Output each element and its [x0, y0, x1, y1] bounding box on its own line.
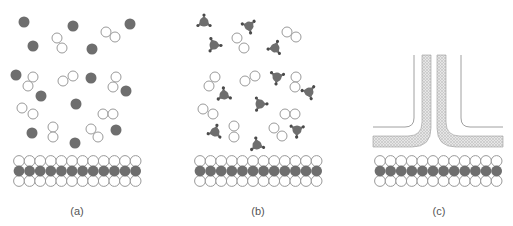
hollow-molecule-pair: [280, 109, 300, 119]
triangular-particle: [266, 37, 285, 55]
dark-particle: [11, 70, 22, 81]
hollow-molecule-pair: [240, 71, 260, 86]
triangular-particle: [208, 37, 223, 53]
hollow-molecule-pair: [101, 27, 120, 42]
triangular-particle: [255, 96, 269, 112]
dark-particle: [70, 138, 81, 149]
triangular-particle: [250, 136, 268, 155]
channel-right-lining: [437, 55, 503, 147]
panel-c: [373, 55, 503, 147]
triangular-particle: [300, 80, 321, 100]
triangular-particle: [240, 15, 260, 36]
dark-particle: [121, 86, 132, 97]
hollow-molecule-pair: [17, 103, 38, 119]
triangular-particle: [216, 86, 235, 106]
membranes: [14, 156, 502, 187]
triangular-particle: [289, 119, 308, 139]
triangular-particle: [206, 122, 225, 139]
dark-particle: [86, 73, 97, 84]
hollow-molecule-pair: [98, 109, 118, 119]
hollow-molecule-pair: [204, 72, 220, 91]
label-a: (a): [70, 205, 83, 217]
panel-a: [11, 17, 136, 149]
channel-right-wall: [461, 55, 503, 127]
dark-particle: [87, 44, 98, 55]
label-c: (c): [433, 205, 446, 217]
channel-left-lining: [373, 55, 431, 147]
hollow-molecule-pair: [232, 33, 249, 53]
figure: (a) (b) (c): [0, 0, 513, 226]
hollow-molecule-pair: [52, 33, 67, 53]
hollow-molecule-pair: [282, 27, 301, 42]
dark-particle: [68, 21, 79, 32]
dark-particle: [111, 125, 122, 136]
hollow-molecule-pair: [58, 71, 78, 86]
dark-particle: [27, 128, 38, 139]
hollow-molecule-pair: [108, 72, 121, 92]
triangular-particle: [269, 67, 287, 86]
hollow-molecule-pair: [86, 124, 103, 142]
hollow-molecule-pair: [269, 123, 287, 141]
panel-b: [196, 13, 320, 155]
dark-particle: [125, 19, 136, 30]
hollow-molecule-pair: [23, 72, 38, 91]
dark-particle: [28, 41, 39, 52]
hollow-molecule-pair: [48, 122, 58, 142]
panel-labels: (a) (b) (c): [70, 205, 445, 217]
triangular-particle: [196, 13, 211, 27]
hollow-molecule-pair: [198, 104, 218, 119]
label-b: (b): [251, 205, 264, 217]
dark-particle: [71, 99, 82, 110]
bilayer-membrane: [375, 156, 502, 187]
hollow-molecule-pair: [229, 121, 239, 142]
dark-particle: [19, 17, 30, 28]
channel-left-wall: [373, 55, 414, 127]
dark-particle: [36, 91, 47, 102]
bilayer-membrane: [195, 156, 322, 187]
bilayer-membrane: [14, 156, 141, 187]
hollow-molecule-pair: [290, 72, 301, 92]
